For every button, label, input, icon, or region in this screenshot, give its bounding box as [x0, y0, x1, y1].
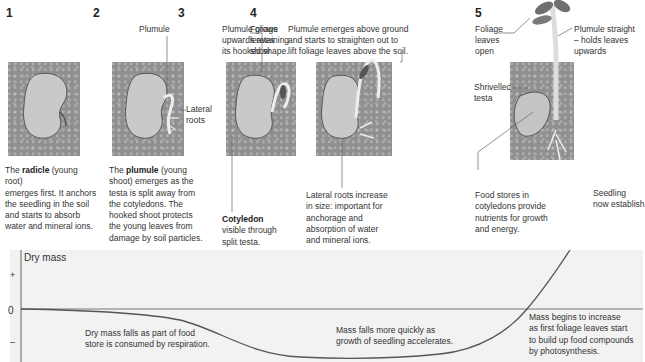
graph-annotation-photosynthesis: Mass begins to increase as first foliage… — [529, 312, 643, 357]
graph-annotation-accelerates: Mass falls more quickly as growth of see… — [336, 325, 466, 348]
graph-annotation-respiration: Dry mass falls as part of food store is … — [85, 328, 215, 351]
